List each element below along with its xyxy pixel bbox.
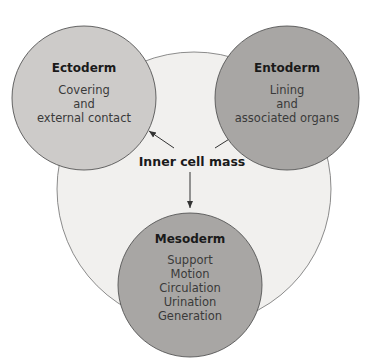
mesoderm-line-1: Support — [167, 253, 213, 267]
entoderm-line-3: associated organs — [235, 111, 339, 125]
ectoderm-line-1: Covering — [58, 83, 109, 97]
mesoderm-title: Mesoderm — [155, 232, 226, 246]
ectoderm-title: Ectoderm — [52, 61, 116, 75]
entoderm-title: Entoderm — [254, 61, 320, 75]
entoderm-line-1: Lining — [270, 83, 305, 97]
mesoderm-line-2: Motion — [171, 267, 210, 281]
mesoderm-line-3: Circulation — [159, 281, 221, 295]
germ-layer-diagram: Ectoderm Covering and external contact E… — [0, 0, 373, 363]
mesoderm-line-4: Urination — [164, 295, 217, 309]
ectoderm-line-3: external contact — [37, 111, 132, 125]
entoderm-line-2: and — [276, 97, 298, 111]
inner-cell-mass-label: Inner cell mass — [139, 154, 246, 169]
ectoderm-line-2: and — [73, 97, 95, 111]
mesoderm-line-5: Generation — [158, 309, 222, 323]
